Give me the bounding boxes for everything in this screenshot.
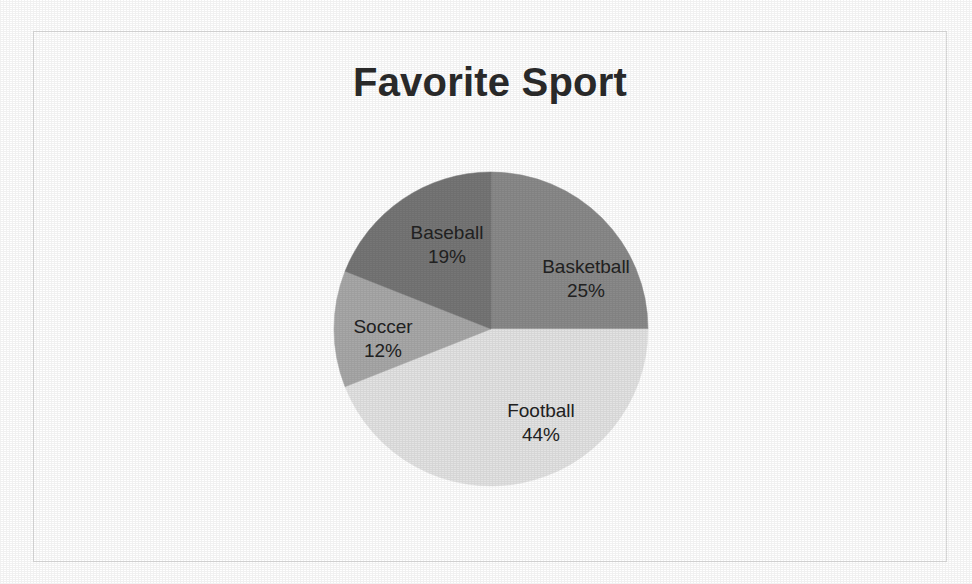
- chart-title: Favorite Sport: [34, 60, 946, 105]
- page-background: Favorite Sport Basketball 25% Football 4…: [0, 0, 972, 584]
- pie-slice-group: [334, 172, 648, 486]
- chart-frame: Favorite Sport Basketball 25% Football 4…: [33, 31, 947, 562]
- pie-slice-basketball: [491, 172, 648, 329]
- pie-chart: Basketball 25% Football 44% Soccer 12% B…: [333, 171, 649, 487]
- pie-chart-svg: [333, 171, 649, 487]
